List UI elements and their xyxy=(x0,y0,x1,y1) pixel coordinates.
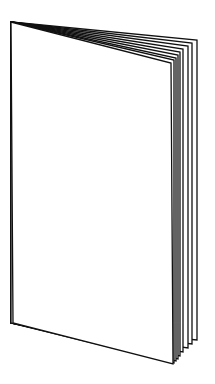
booklet-icon xyxy=(0,0,215,384)
booklet-illustration: open booklet line drawing xyxy=(0,0,215,384)
front-cover xyxy=(11,22,173,364)
